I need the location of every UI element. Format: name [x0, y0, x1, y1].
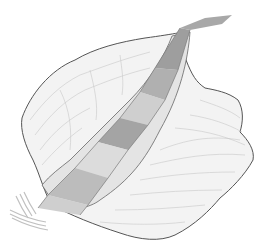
terrain-render: [0, 0, 267, 249]
hatch-marks: [10, 192, 48, 230]
